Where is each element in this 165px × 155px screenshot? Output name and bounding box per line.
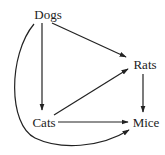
node-rats: Rats — [133, 58, 156, 71]
edge-dogs-rats — [52, 23, 126, 57]
node-mice: Mice — [133, 116, 160, 129]
graph-canvas — [0, 0, 165, 155]
node-cats: Cats — [32, 116, 55, 129]
node-dogs: Dogs — [34, 8, 61, 21]
edge-cats-rats — [54, 69, 128, 115]
